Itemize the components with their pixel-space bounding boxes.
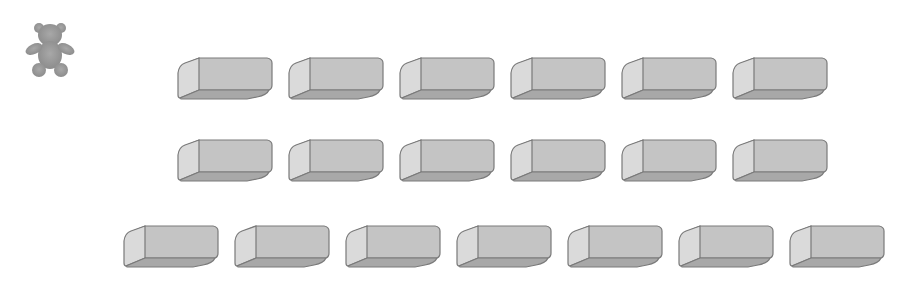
eraser-icon [177,139,273,183]
teddy-bear-icon [22,20,78,80]
eraser-icon [177,57,273,101]
eraser-icon [789,225,885,269]
eraser-icon [456,225,552,269]
eraser-icon [678,225,774,269]
eraser-icon [234,225,330,269]
eraser-icon [510,57,606,101]
eraser-icon [399,57,495,101]
eraser-icon [123,225,219,269]
eraser-icon [288,57,384,101]
eraser-icon [288,139,384,183]
eraser-icon [345,225,441,269]
eraser-icon [399,139,495,183]
eraser-icon [621,57,717,101]
eraser-icon [567,225,663,269]
eraser-icon [621,139,717,183]
eraser-icon [510,139,606,183]
eraser-icon [732,139,828,183]
eraser-icon [732,57,828,101]
